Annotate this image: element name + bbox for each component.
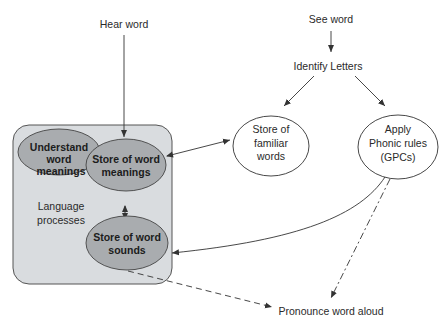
- store-meanings-line-1: Store of word: [92, 153, 160, 165]
- store-sounds-line-2: sounds: [108, 244, 145, 256]
- familiar-meanings-double-arrow: [167, 140, 230, 156]
- understand-line-2: word: [45, 153, 71, 165]
- familiar-line-1: Store of: [253, 123, 290, 135]
- store-of-word-meanings-node: [86, 139, 166, 191]
- language-processes-line-2: processes: [37, 214, 85, 226]
- hear-word-label: Hear word: [100, 18, 149, 30]
- phonic-to-sounds-arrow: [172, 177, 385, 253]
- phonic-line-1: Apply: [385, 123, 412, 135]
- pronounce-word-aloud-label: Pronounce word aloud: [278, 305, 383, 317]
- phonic-to-pronounce-dashed-arrow: [331, 179, 390, 298]
- understand-line-1: Understand: [30, 141, 88, 153]
- reading-model-diagram: Hear word Understand word meanings Store…: [0, 0, 447, 329]
- language-processes-line-1: Language: [38, 200, 85, 212]
- sounds-to-pronounce-dashed-arrow: [128, 271, 272, 307]
- store-sounds-line-1: Store of word: [93, 231, 161, 243]
- phonic-line-3: (GPCs): [381, 151, 416, 163]
- understand-line-2-text: word: [45, 153, 71, 165]
- store-of-word-sounds-node: [86, 216, 168, 270]
- familiar-line-3: words: [256, 150, 285, 162]
- identify-letters-label: Identify Letters: [294, 60, 363, 72]
- understand-line-3: meanings: [36, 165, 85, 177]
- see-word-label: See word: [309, 13, 354, 25]
- identify-to-familiar-arrow: [284, 76, 314, 106]
- familiar-line-2: familiar: [254, 137, 288, 149]
- identify-to-phonic-arrow: [355, 76, 385, 106]
- understand-line-3-text: meanings: [36, 165, 85, 177]
- store-meanings-line-2: meanings: [101, 166, 150, 178]
- understand-word-meanings-label: Understand: [30, 141, 88, 153]
- phonic-line-2: Phonic rules: [369, 137, 427, 149]
